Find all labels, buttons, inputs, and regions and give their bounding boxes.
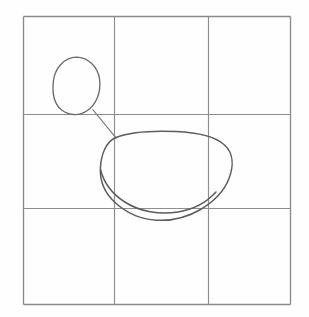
- figure-canvas: Two closed curves on a 3x3 grid: [0, 0, 309, 317]
- grid-lines: [24, 17, 290, 304]
- hand-drawn-figure-svg: [0, 0, 309, 317]
- small-blob: [53, 57, 100, 114]
- connector-line: [93, 110, 116, 139]
- large-blob: [100, 131, 232, 220]
- outer-square-border: [24, 17, 291, 305]
- large-blob-tail: [101, 170, 216, 213]
